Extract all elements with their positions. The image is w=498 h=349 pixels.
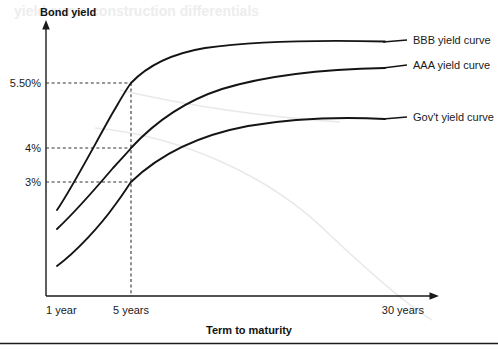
legend-item-aaa-yield-curve: AAA yield curve — [413, 59, 490, 71]
y-axis-arrowhead — [42, 20, 50, 30]
x-tick-label-1-year: 1 year — [46, 304, 77, 316]
y-axis — [42, 20, 50, 296]
legend-leader-bbb — [383, 40, 407, 42]
x-axis-title: Term to maturity — [206, 324, 293, 336]
curve-gov-yield — [57, 118, 385, 266]
x-tick-label-30-years: 30 years — [382, 304, 425, 316]
x-axis-arrowhead — [430, 292, 440, 300]
legend-leader-aaa — [383, 65, 407, 68]
x-tick-label-5-years: 5 years — [113, 304, 150, 316]
bleed-curve-right — [95, 128, 432, 320]
legend-item-gov-yield-curve: Gov't yield curve — [413, 111, 494, 123]
curve-bbb-yield — [57, 41, 385, 210]
yield-curve-figure: yield curve construction differentials B… — [0, 0, 498, 349]
x-axis — [46, 292, 439, 300]
y-tick-label-3: 3% — [25, 176, 41, 188]
curve-aaa-yield — [57, 68, 385, 229]
legend-leader-gov — [383, 117, 407, 119]
y-axis-title: Bond yield — [40, 6, 96, 18]
page-bleed-artifacts: yield curve construction differentials — [14, 3, 432, 320]
yield-curve-chart: yield curve construction differentials B… — [0, 0, 498, 349]
legend-item-bbb-yield-curve: BBB yield curve — [413, 34, 491, 46]
bleed-curve-left — [120, 90, 340, 122]
y-tick-label-550: 5.50% — [10, 77, 41, 89]
legend-leader-lines — [383, 40, 407, 119]
y-tick-label-4: 4% — [25, 142, 41, 154]
